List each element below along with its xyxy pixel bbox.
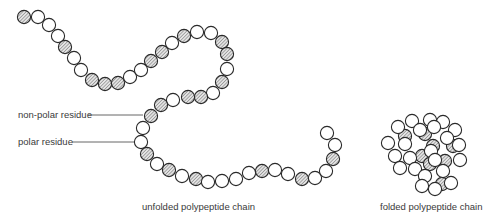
non-polar-residue-bead (326, 152, 339, 165)
non-polar-residue-bead (189, 172, 202, 185)
polar-residue-bead (436, 164, 449, 177)
non-polar-residue-bead (144, 54, 157, 67)
polypeptide-folding-diagram: non-polar residue polar residue unfolded… (0, 0, 485, 214)
non-polar-residue-bead (162, 163, 175, 176)
polar-residue-bead (444, 176, 457, 189)
folded-chain (381, 113, 466, 195)
polar-residue-bead (242, 166, 255, 179)
non-polar-residue-bead (17, 10, 30, 23)
polar-residue-bead (319, 164, 332, 177)
non-polar-residue-bead (255, 164, 268, 177)
polar-residue-bead (440, 131, 453, 144)
polar-residue-bead (215, 174, 228, 187)
polar-residue-bead (190, 25, 203, 38)
polar-residue-bead (281, 167, 294, 180)
polar-residue-bead (453, 153, 466, 166)
non-polar-residue-bead (111, 76, 124, 89)
polar-residue-bead (381, 136, 394, 149)
polar-residue-bead (391, 120, 404, 133)
folded-chain-caption: folded polypeptide chain (380, 202, 482, 212)
non-polar-residue-bead (85, 73, 98, 86)
polar-residue-bead (150, 157, 163, 170)
polar-residue-bead (42, 18, 55, 31)
polar-residue-bead (74, 63, 87, 76)
polar-residue-bead (166, 93, 179, 106)
polar-residue-bead (398, 137, 411, 150)
polar-residue-bead (388, 149, 401, 162)
unfolded-chain (17, 10, 341, 188)
polar-residue-bead (31, 10, 44, 23)
non-polar-residue-label: non-polar residue (18, 110, 92, 120)
polar-residue-bead (328, 138, 341, 151)
non-polar-residue-bead (215, 75, 228, 88)
non-polar-residue-bead (215, 35, 228, 48)
non-polar-residue-bead (295, 172, 308, 185)
polar-residue-bead (428, 153, 441, 166)
polar-residue-bead (452, 138, 465, 151)
polar-residue-bead (201, 175, 214, 188)
polar-residue-bead (206, 86, 219, 99)
polar-residue-bead (415, 179, 428, 192)
polar-residue-bead (428, 182, 441, 195)
polar-residue-bead (204, 26, 217, 39)
non-polar-residue-bead (181, 90, 194, 103)
polar-residue-bead (136, 121, 149, 134)
non-polar-residue-bead (58, 40, 71, 53)
polar-residue-label: polar residue (18, 137, 73, 147)
polar-residue-bead (67, 51, 80, 64)
unfolded-chain-caption: unfolded polypeptide chain (142, 202, 255, 212)
non-polar-residue-bead (177, 29, 190, 42)
non-polar-residue-bead (140, 147, 153, 160)
polar-residue-bead (268, 163, 281, 176)
polar-residue-bead (229, 172, 242, 185)
polar-residue-bead (393, 161, 406, 174)
polar-residue-bead (220, 62, 233, 75)
non-polar-residue-bead (154, 98, 167, 111)
polar-residue-bead (165, 36, 178, 49)
polar-residue-bead (134, 135, 147, 148)
diagram-canvas (0, 0, 485, 214)
polar-residue-bead (413, 123, 426, 136)
non-polar-residue-bead (144, 109, 157, 122)
polar-residue-bead (320, 126, 333, 139)
polar-residue-bead (427, 120, 440, 133)
polar-residue-bead (175, 169, 188, 182)
non-polar-residue-bead (220, 47, 233, 60)
non-polar-residue-bead (98, 77, 111, 90)
non-polar-residue-bead (194, 90, 207, 103)
